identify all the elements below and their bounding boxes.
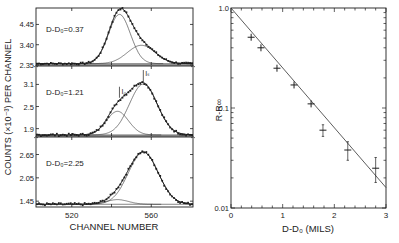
data-point [54,63,56,65]
data-point [86,135,88,137]
right-x-label: D-D₀ (MILS) [282,223,334,234]
data-point [72,203,74,205]
data-point [175,61,177,63]
data-point [80,133,82,135]
data-point [94,59,96,61]
data-point [80,62,82,64]
data-point [36,63,38,65]
data-point [108,32,110,34]
data-point [48,203,50,205]
data-point [102,125,104,127]
data-point [72,63,74,65]
data-point [88,61,90,63]
data-point [76,63,78,65]
data-point [78,64,80,66]
data-point [112,21,114,23]
data-point [112,193,114,195]
data-point [40,203,42,205]
data-point [114,104,116,106]
data-point [179,202,181,204]
data-point [38,63,40,65]
data-point [185,62,187,64]
data-point [167,123,169,125]
data-point [157,54,159,56]
data-point [64,203,66,205]
data-point [191,62,193,64]
data-point [58,202,60,204]
data-point [161,114,163,116]
data-point [128,16,130,18]
right-y-label: R-R∞ [214,99,224,121]
data-point [145,84,147,86]
data-point [153,98,155,100]
data-point [163,116,165,118]
data-point [139,83,141,85]
data-point [118,187,120,189]
data-point [48,64,50,66]
data-point [135,156,137,158]
data-point [98,129,100,131]
data-point [175,199,177,201]
data-point [177,63,179,65]
data-point [133,85,135,87]
data-point [60,134,62,136]
data-point [60,62,62,64]
data-point [169,194,171,196]
data-point [92,60,94,62]
panel-label: D-D₀=2.25 [46,159,84,168]
data-point [42,134,44,136]
data-point [161,57,163,59]
data-point [120,9,122,11]
panel-label: D-D₀=1.21 [46,88,84,97]
data-point [137,83,139,85]
data-point [179,134,181,136]
data-point [135,30,137,32]
data-point [133,159,135,161]
data-point [84,202,86,204]
data-point [54,135,56,137]
data-point [171,196,173,198]
data-point [56,133,58,135]
data-point [171,62,173,64]
data-point [126,11,128,13]
data-point [50,62,52,64]
data-point [44,204,46,206]
decay-plot: 1.00.10.010123 [214,4,388,220]
data-point [38,134,40,136]
y-tick-label: 2.35 [19,61,34,70]
data-point [155,100,157,102]
data-point [90,62,92,64]
data-point [38,202,40,204]
data-point [94,131,96,133]
data-point [90,203,92,205]
data-point [139,37,141,39]
data-point [153,164,155,166]
data-point [88,203,90,205]
data-point [141,81,143,83]
data-point [62,134,64,136]
data-point [131,23,133,25]
data-point [159,175,161,177]
data-point [137,33,139,35]
data-point [118,9,120,11]
data-point [98,55,100,57]
data-point [70,202,72,204]
data-point [116,188,118,190]
data-point [169,127,171,129]
data-point [110,111,112,113]
data-point [151,48,153,50]
data-point [64,134,66,136]
data-point [189,204,191,206]
data-point [68,203,70,205]
data-point [104,200,106,202]
data-point [177,201,179,203]
data-point [72,133,74,135]
data-point [40,64,42,66]
component-curve [76,14,164,63]
data-point [90,132,92,134]
total-fit-curve [36,9,193,64]
x-tick-label: 560 [145,211,159,220]
data-point [120,184,122,186]
data-point [106,119,108,121]
data-point [179,63,181,65]
